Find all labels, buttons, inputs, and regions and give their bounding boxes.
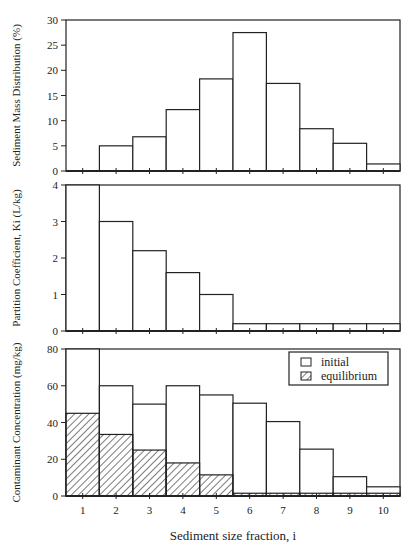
bar-value-1	[66, 185, 99, 331]
x-axis-title: Sediment size fraction, i	[170, 528, 297, 543]
y-tick-label: 20	[47, 453, 59, 465]
panel-top: 051015202530Sediment Mass Distribution (…	[10, 14, 400, 177]
y-tick-label: 2	[53, 252, 59, 264]
y-tick-label: 60	[47, 380, 59, 392]
y-tick-label: 40	[47, 417, 59, 429]
bar-initial-8	[300, 449, 333, 496]
bar-value-2	[99, 146, 132, 171]
y-tick-label: 4	[53, 179, 59, 191]
bar-value-7	[266, 83, 299, 171]
x-tick-label: 10	[378, 504, 390, 516]
bar-value-2	[99, 222, 132, 332]
legend-initial-label: initial	[321, 355, 350, 369]
y-tick-label: 30	[47, 14, 59, 26]
y-tick-label: 0	[53, 325, 59, 337]
x-tick-label: 9	[347, 504, 353, 516]
x-tick-label: 1	[80, 504, 86, 516]
bar-equilibrium-1	[66, 413, 99, 496]
y-tick-label: 0	[53, 490, 59, 502]
legend-initial-swatch	[301, 358, 311, 366]
bar-value-6	[233, 33, 266, 171]
y-tick-label: 20	[47, 64, 59, 76]
chart-figure: 051015202530Sediment Mass Distribution (…	[0, 0, 417, 554]
legend-equilibrium-label: equilibrium	[321, 369, 378, 383]
bar-value-3	[133, 137, 166, 171]
y-tick-label: 15	[47, 90, 59, 102]
bar-value-5	[200, 295, 233, 332]
y-tick-label: 80	[47, 343, 59, 355]
x-tick-label: 2	[113, 504, 119, 516]
bar-value-4	[166, 110, 199, 171]
y-tick-label: 3	[53, 216, 59, 228]
y-tick-label: 10	[47, 115, 59, 127]
bar-equilibrium-4	[166, 463, 199, 496]
bar-equilibrium-5	[200, 475, 233, 496]
x-tick-label: 4	[180, 504, 186, 516]
bar-value-5	[200, 79, 233, 171]
bar-equilibrium-2	[99, 434, 132, 496]
y-tick-label: 0	[53, 165, 59, 177]
y-tick-label: 25	[47, 39, 59, 51]
x-tick-label: 5	[214, 504, 220, 516]
panel-middle: 01234Partition Coefficient, Ki (L/kg)	[10, 179, 400, 337]
x-tick-label: 8	[314, 504, 320, 516]
x-tick-label: 7	[280, 504, 286, 516]
y-axis-title: Contaminant Concentration (mg/kg)	[10, 342, 23, 502]
x-tick-label: 3	[147, 504, 153, 516]
bar-value-8	[300, 129, 333, 171]
y-axis-title: Sediment Mass Distribution (%)	[10, 24, 23, 167]
bar-initial-7	[266, 422, 299, 496]
x-tick-label: 6	[247, 504, 253, 516]
bar-value-9	[333, 143, 366, 171]
bar-value-4	[166, 273, 199, 331]
legend: initial equilibrium	[289, 352, 388, 385]
bar-equilibrium-3	[133, 450, 166, 496]
y-tick-label: 1	[53, 289, 59, 301]
y-tick-label: 5	[53, 140, 59, 152]
bar-initial-6	[233, 403, 266, 496]
bar-value-3	[133, 251, 166, 331]
y-axis-title: Partition Coefficient, Ki (L/kg)	[10, 189, 23, 327]
legend-equilibrium-swatch	[301, 372, 311, 380]
